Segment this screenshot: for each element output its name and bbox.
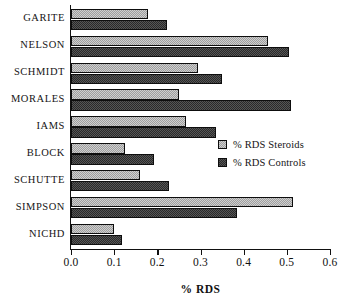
bar-iams-controls xyxy=(71,127,216,137)
bar-schmidt-steroids xyxy=(71,63,198,73)
category-label-morales: MORALES xyxy=(0,93,65,104)
bar-block-steroids xyxy=(71,143,125,153)
bar-nelson-steroids xyxy=(71,36,268,46)
bar-iams-steroids xyxy=(71,116,186,126)
x-tick-label-0.3: 0.3 xyxy=(181,256,221,268)
category-label-garite: GARITE xyxy=(0,12,65,23)
x-tick-0.4 xyxy=(244,250,245,255)
x-tick-label-0.0: 0.0 xyxy=(51,256,91,268)
x-tick-label-0.5: 0.5 xyxy=(267,256,307,268)
plot-area xyxy=(71,6,330,248)
category-label-nelson: NELSON xyxy=(0,39,65,50)
x-tick-0.3 xyxy=(201,250,202,255)
category-label-nichd: NICHD xyxy=(0,228,65,239)
bar-garite-controls xyxy=(71,20,167,30)
category-label-schmidt: SCHMIDT xyxy=(0,66,65,77)
legend-swatch-controls-icon xyxy=(218,158,227,167)
rds-bar-chart: GARITENELSONSCHMIDTMORALESIAMSBLOCKSCHUT… xyxy=(0,0,347,307)
x-tick-label-0.6: 0.6 xyxy=(310,256,347,268)
x-tick-0.6 xyxy=(330,250,331,255)
x-tick-label-0.2: 0.2 xyxy=(137,256,177,268)
category-label-simpson: SIMPSON xyxy=(0,201,65,212)
legend-swatch-steroids-icon xyxy=(218,140,227,149)
bar-simpson-steroids xyxy=(71,197,293,207)
bar-morales-steroids xyxy=(71,89,179,99)
x-tick-label-0.1: 0.1 xyxy=(94,256,134,268)
x-tick-0.1 xyxy=(114,250,115,255)
x-tick-0.2 xyxy=(157,250,158,255)
bar-schutte-steroids xyxy=(71,170,140,180)
category-label-iams: IAMS xyxy=(0,120,65,131)
bar-morales-controls xyxy=(71,100,291,110)
chart-legend: % RDS Steroids % RDS Controls xyxy=(218,137,306,173)
x-tick-label-0.4: 0.4 xyxy=(224,256,264,268)
x-tick-0.0 xyxy=(71,250,72,255)
bar-nelson-controls xyxy=(71,47,289,57)
bar-simpson-controls xyxy=(71,208,237,218)
legend-label-controls: % RDS Controls xyxy=(233,157,306,168)
legend-item-steroids: % RDS Steroids xyxy=(218,137,306,152)
bar-block-controls xyxy=(71,154,154,164)
bar-schmidt-controls xyxy=(71,74,222,84)
bar-schutte-controls xyxy=(71,181,169,191)
legend-item-controls: % RDS Controls xyxy=(218,155,306,170)
x-axis-title: % RDS xyxy=(71,283,330,295)
bar-nichd-controls xyxy=(71,235,122,245)
bar-nichd-steroids xyxy=(71,224,114,234)
x-tick-0.5 xyxy=(287,250,288,255)
legend-label-steroids: % RDS Steroids xyxy=(233,139,304,150)
category-label-schutte: SCHUTTE xyxy=(0,174,65,185)
category-label-block: BLOCK xyxy=(0,147,65,158)
bar-garite-steroids xyxy=(71,9,148,19)
